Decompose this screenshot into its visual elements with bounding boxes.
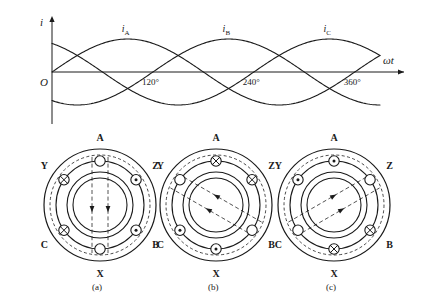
current-out-dot-icon: [178, 229, 181, 232]
current-waveform-chart: iωtO120°240°360°iAiBiC: [40, 16, 404, 124]
conductor-slot-X: [95, 244, 105, 254]
current-out-dot-icon: [296, 178, 299, 181]
slot-label-A: A: [97, 132, 105, 143]
subfigure-caption: (b): [208, 282, 219, 292]
current-out-dot-icon: [135, 178, 138, 181]
slot-label-Y: Y: [157, 160, 165, 171]
slot-label-B: B: [386, 239, 393, 250]
conductor-slot-Z: [247, 175, 257, 185]
stator-diagrams-row: AZBXCY(a)AZBXCY(b)AZBXCY(c): [41, 132, 393, 293]
curve-label-iB: iB: [223, 23, 231, 37]
conductor-slot-Y: [59, 175, 69, 185]
current-out-dot-icon: [333, 160, 336, 163]
x-axis-label: ωt: [383, 54, 395, 66]
stator-bore-circle: [301, 172, 367, 238]
conductor-slot-A: [329, 156, 339, 166]
stator-inner-circle: [307, 178, 361, 232]
field-direction-arrow: [206, 208, 213, 213]
y-axis-arrow: [49, 16, 54, 22]
field-direction-arrow: [214, 194, 221, 199]
conductor-slot-Y: [175, 175, 185, 185]
three-phase-rotating-field-figure: iωtO120°240°360°iAiBiC AZBXCY(a)AZBXCY(b…: [0, 0, 431, 304]
slot-label-C: C: [275, 239, 282, 250]
slot-label-C: C: [157, 239, 164, 250]
conductor-slot-Z: [131, 175, 141, 185]
stator-dashed-circle: [284, 155, 384, 255]
stator-dashed-circle: [166, 155, 266, 255]
slot-label-X: X: [97, 268, 105, 279]
stator-slot-ring: [172, 161, 260, 249]
conductor-circle-zero: [175, 175, 185, 185]
conductor-slot-C: [293, 225, 303, 235]
slot-label-Z: Z: [386, 160, 393, 171]
conductor-slot-B: [365, 225, 375, 235]
subfigure-caption: (c): [326, 282, 336, 292]
slot-label-Y: Y: [275, 160, 283, 171]
stator-inner-circle: [73, 178, 127, 232]
stator-dashed-circle: [50, 155, 150, 255]
subfigure-caption: (a): [92, 282, 102, 292]
field-direction-arrow: [106, 206, 111, 212]
conductor-slot-X: [329, 244, 339, 254]
x-tick-label-120deg: 120°: [142, 77, 160, 87]
conductor-slot-C: [59, 225, 69, 235]
conductor-slot-A: [211, 156, 221, 166]
field-direction-arrow: [338, 208, 345, 213]
current-out-dot-icon: [215, 248, 218, 251]
x-axis-arrow: [398, 69, 404, 74]
stator-bore-circle: [67, 172, 133, 238]
curve-label-iA: iA: [122, 23, 130, 37]
conductor-slot-C: [175, 225, 185, 235]
conductor-slot-Y: [293, 175, 303, 185]
stator-slot-ring: [56, 161, 144, 249]
field-direction-arrow: [90, 206, 95, 212]
stator-inner-circle: [189, 178, 243, 232]
conductor-circle-zero: [95, 156, 105, 166]
stator-diagram-c: AZBXCY(c): [275, 132, 393, 293]
conductor-slot-B: [131, 225, 141, 235]
stator-diagram-b: AZBXCY(b): [157, 132, 275, 293]
conductor-circle-zero: [365, 175, 375, 185]
field-direction-arrow: [330, 194, 337, 199]
curve-label-iC: iC: [324, 23, 332, 37]
slot-label-C: C: [41, 239, 48, 250]
slot-label-A: A: [331, 132, 339, 143]
slot-label-X: X: [213, 268, 221, 279]
conductor-slot-A: [95, 156, 105, 166]
current-out-dot-icon: [135, 229, 138, 232]
conductor-circle-zero: [247, 225, 257, 235]
stator-diagram-a: AZBXCY(a): [41, 132, 159, 293]
x-tick-label-360deg: 360°: [344, 77, 362, 87]
slot-label-X: X: [331, 268, 339, 279]
conductor-slot-Z: [365, 175, 375, 185]
conductor-slot-X: [211, 244, 221, 254]
x-tick-label-240deg: 240°: [243, 77, 261, 87]
slot-label-A: A: [213, 132, 221, 143]
stator-bore-circle: [183, 172, 249, 238]
origin-label: O: [40, 76, 48, 88]
slot-label-Y: Y: [41, 160, 49, 171]
conductor-circle-zero: [95, 244, 105, 254]
conductor-slot-B: [247, 225, 257, 235]
stator-slot-ring: [290, 161, 378, 249]
y-axis-label: i: [40, 16, 43, 28]
conductor-circle-zero: [293, 225, 303, 235]
